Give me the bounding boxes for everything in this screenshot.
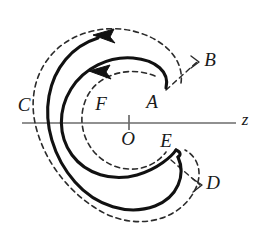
- dashed-inner-circle: [82, 72, 166, 170]
- label-C: C: [18, 94, 31, 115]
- diagram-svg: A B C D E F O z: [0, 0, 265, 235]
- label-B: B: [204, 49, 216, 70]
- label-O: O: [121, 128, 135, 149]
- outer-flow-arrow: [93, 29, 115, 43]
- label-A: A: [144, 91, 158, 112]
- label-F: F: [94, 93, 107, 114]
- solid-spiral-hook-e: [176, 150, 180, 157]
- figure-canvas: A B C D E F O z: [0, 0, 265, 235]
- label-D: D: [205, 172, 220, 193]
- label-E: E: [159, 130, 172, 151]
- label-z-axis: z: [241, 110, 249, 129]
- dashed-leader-b: [166, 56, 199, 90]
